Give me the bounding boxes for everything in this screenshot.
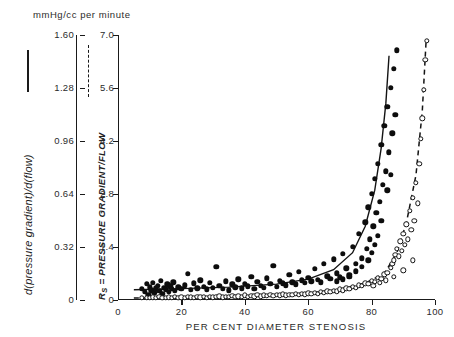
- solid-line-legend-stroke: [27, 50, 29, 92]
- figure-panel: mmHg/cc per minute d(pressure gradient)/…: [0, 0, 454, 337]
- y-label-left: 0: [68, 294, 74, 305]
- fit-curves: [118, 35, 435, 300]
- left-axis-caption: d(pressure gradient)/d(flow): [22, 154, 34, 295]
- x-label: 40: [239, 306, 250, 317]
- plot-area: [118, 35, 435, 300]
- y-label-right: 1.4: [100, 241, 114, 252]
- y-label-right: 4.2: [100, 135, 114, 146]
- x-tick: [181, 300, 182, 305]
- y-tick-right: [113, 300, 118, 301]
- y-axis-left-scale: 00.320.640.961.281.60: [38, 35, 76, 300]
- x-tick: [308, 300, 309, 305]
- y-tick-right: [113, 35, 118, 36]
- x-axis-caption: PER CENT DIAMETER STENOSIS: [186, 321, 366, 332]
- x-label: 60: [303, 306, 314, 317]
- y-label-right: 5.6: [100, 82, 114, 93]
- y-axis-right-scale: 01.42.84.25.67.0: [78, 35, 114, 300]
- x-label: 0: [115, 306, 121, 317]
- y-label-left: 0.96: [54, 135, 74, 146]
- x-tick: [435, 300, 436, 305]
- units-header: mmHg/cc per minute: [33, 9, 131, 20]
- x-tick: [245, 300, 246, 305]
- x-label: 80: [366, 306, 377, 317]
- y-label-left: 1.28: [54, 82, 74, 93]
- x-label: 20: [176, 306, 187, 317]
- y-label-right: 7.0: [100, 29, 114, 40]
- solid-fit-curve: [134, 56, 389, 290]
- y-tick-right: [113, 141, 118, 142]
- y-tick-right: [113, 88, 118, 89]
- x-tick: [372, 300, 373, 305]
- y-label-left: 1.60: [54, 29, 74, 40]
- y-tick-right: [113, 194, 118, 195]
- y-label-left: 0.32: [54, 241, 74, 252]
- x-label: 100: [426, 306, 443, 317]
- y-label-left: 0.64: [54, 188, 74, 199]
- y-tick-left: [80, 300, 85, 301]
- y-label-right: 2.8: [100, 188, 114, 199]
- y-tick-right: [113, 247, 118, 248]
